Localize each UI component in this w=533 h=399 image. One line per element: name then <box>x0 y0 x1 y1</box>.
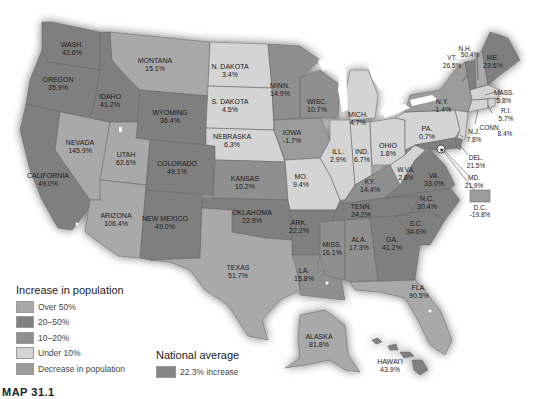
svg-text:MISS.16.1%: MISS.16.1% <box>322 241 342 256</box>
svg-text:UTAH62.6%: UTAH62.6% <box>116 151 136 166</box>
national-average-label: 22.3% increase <box>180 367 239 377</box>
legend-swatch <box>16 316 34 328</box>
legend-label: Under 10% <box>38 348 81 358</box>
national-average-legend: National average 22.3% increase <box>156 349 239 380</box>
state-s-dakota <box>206 86 274 130</box>
legend-item-under-10: Under 10% <box>16 346 125 362</box>
svg-text:ALA.17.3%: ALA.17.3% <box>349 236 369 251</box>
national-average-title: National average <box>156 349 239 361</box>
svg-text:IND.6.7%: IND.6.7% <box>354 148 370 163</box>
svg-text:NEVADA145.9%: NEVADA145.9% <box>66 139 95 154</box>
svg-text:ARK.22.2%: ARK.22.2% <box>289 219 309 234</box>
svg-text:VT.26.5%: VT.26.5% <box>443 54 462 69</box>
svg-text:MINN.14.9%: MINN.14.9% <box>270 82 290 97</box>
svg-text:★: ★ <box>439 147 444 153</box>
svg-text:D.C.-19.8%: D.C.-19.8% <box>470 204 491 218</box>
svg-text:IOWA-1.7%: IOWA-1.7% <box>283 129 302 144</box>
svg-text:MASS.5.8%: MASS.5.8% <box>494 89 514 104</box>
legend-item-20-50: 20–50% <box>16 315 125 331</box>
city-marker <box>429 310 432 313</box>
svg-text:MICH.4.7%: MICH.4.7% <box>348 111 368 126</box>
legend-item-10-20: 10–20% <box>16 330 125 346</box>
svg-text:WASH.42.6%: WASH.42.6% <box>61 41 84 56</box>
svg-text:DEL.21.5%: DEL.21.5% <box>467 154 486 169</box>
svg-text:ARIZONA106.4%: ARIZONA106.4% <box>100 212 131 227</box>
svg-text:HAWAI'I43.9%: HAWAI'I43.9% <box>377 358 403 373</box>
svg-text:TENN.24.2%: TENN.24.2% <box>351 203 372 218</box>
svg-text:ILL.2.9%: ILL.2.9% <box>330 148 346 163</box>
svg-text:N.J.7.8%: N.J.7.8% <box>467 128 482 143</box>
svg-text:IDAHO41.2%: IDAHO41.2% <box>99 93 122 108</box>
legend-label: Decrease in population <box>38 364 125 374</box>
svg-text:W.VA.2.8%: W.VA.2.8% <box>397 166 415 181</box>
national-average-item: 22.3% increase <box>156 364 239 380</box>
legend-label: Over 50% <box>38 302 76 312</box>
legend-label: 20–50% <box>38 317 69 327</box>
svg-text:R.I.5.7%: R.I.5.7% <box>499 107 514 122</box>
map-caption: MAP 31.1 <box>2 386 55 398</box>
legend-swatch <box>16 363 34 375</box>
legend-swatch <box>156 366 176 378</box>
city-marker <box>326 282 329 285</box>
state-fla <box>350 280 452 355</box>
svg-text:CONN.8.4%: CONN.8.4% <box>480 124 513 137</box>
svg-text:TEXAS51.7%: TEXAS51.7% <box>227 264 250 279</box>
legend-item-over-50: Over 50% <box>16 299 125 315</box>
legend-swatch <box>16 301 34 313</box>
state-ri <box>488 98 495 108</box>
svg-text:OHIO1.8%: OHIO1.8% <box>379 142 397 157</box>
svg-text:N.C.30.4%: N.C.30.4% <box>417 195 437 210</box>
utah-lake-marker <box>119 127 122 132</box>
svg-text:ALASKA81.8%: ALASKA81.8% <box>305 333 333 348</box>
city-marker <box>76 223 79 226</box>
svg-text:WISC.10.7%: WISC.10.7% <box>307 98 327 113</box>
svg-text:N.H.50.4%: N.H.50.4% <box>459 45 480 58</box>
svg-text:MO.9.4%: MO.9.4% <box>293 173 309 188</box>
legend-title: Increase in population <box>16 284 125 296</box>
legend: Increase in population Over 50% 20–50% 1… <box>16 284 125 377</box>
svg-text:MD.21.9%: MD.21.9% <box>465 174 484 189</box>
legend-swatch <box>16 347 34 359</box>
svg-text:FLA.90.5%: FLA.90.5% <box>409 284 429 299</box>
legend-item-decrease: Decrease in population <box>16 361 125 377</box>
legend-label: 10–20% <box>38 333 69 343</box>
dc-inset-box <box>470 190 490 202</box>
legend-swatch <box>16 332 34 344</box>
